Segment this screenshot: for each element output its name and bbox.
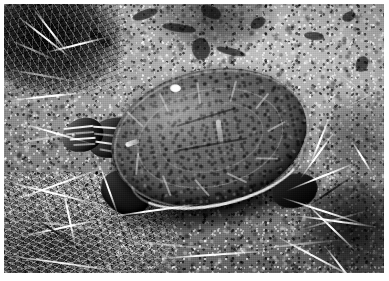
image-alt-text: A painted turtle with a broad oval carap… (0, 0, 1, 1)
grass-blade (334, 70, 375, 101)
grass-blade (4, 91, 94, 102)
photo-frame (4, 4, 384, 273)
image-caption: Black-and-white photograph of a turtle r… (0, 0, 1, 1)
grass-blade (154, 250, 274, 260)
dry-grass (4, 4, 384, 273)
grass-blade (108, 203, 203, 218)
grass-blade (4, 254, 123, 272)
photograph (4, 4, 384, 273)
grass-blade (12, 167, 103, 201)
grass-blade-dark (303, 169, 362, 210)
grass-blade-dark (23, 210, 95, 260)
grass-blade (351, 140, 373, 175)
grass-blade (124, 240, 232, 251)
screenshot-root: Black-and-white photograph of a turtle r… (0, 0, 389, 281)
grass-blade (6, 68, 85, 83)
grass-blade (99, 165, 119, 216)
